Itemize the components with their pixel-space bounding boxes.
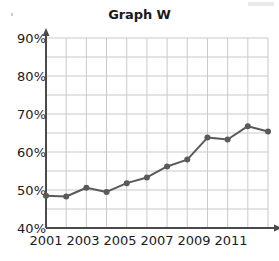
data-point-2007 [164,163,170,169]
gridlines [46,38,268,228]
data-point-2006 [144,174,150,180]
data-point-2002 [63,193,69,199]
data-point-2001 [43,193,49,199]
data-point-2011 [245,123,251,129]
data-point-2005 [124,180,130,186]
data-point-2012 [265,128,271,134]
data-point-2003 [83,185,89,191]
data-point-2004 [104,189,110,195]
data-point-2008 [184,157,190,163]
plot-area [0,0,279,261]
data-point-2009 [204,135,210,141]
data-line [46,126,268,196]
chart-container: Graph W 90% 80% 70% 60% 50% 40% 2001 200… [0,0,279,261]
data-point-2010 [225,136,231,142]
